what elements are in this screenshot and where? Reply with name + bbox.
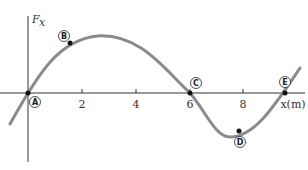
- svg-text:B: B: [61, 32, 67, 41]
- x-tick-label-2: 2: [79, 98, 86, 111]
- x-axis-label: x(m): [280, 98, 305, 111]
- point-b-label: B: [59, 31, 70, 42]
- point-a-dot: [26, 91, 31, 96]
- svg-text:E: E: [282, 78, 287, 87]
- x-tick-label-8: 8: [240, 98, 247, 111]
- svg-text:D: D: [237, 138, 244, 147]
- svg-text:A: A: [32, 98, 39, 107]
- y-axis-label-sub: x: [39, 16, 46, 29]
- force-position-graph: 2 4 6 8 x(m) F x A B C D E: [0, 0, 308, 170]
- point-d-dot: [237, 129, 242, 134]
- point-c-label: C: [191, 78, 202, 89]
- point-b-dot: [68, 41, 73, 46]
- point-e-dot: [283, 91, 288, 96]
- svg-text:C: C: [193, 79, 199, 88]
- point-a-label: A: [30, 97, 41, 108]
- x-tick-label-6: 6: [187, 98, 194, 111]
- point-d-label: D: [235, 137, 246, 148]
- point-e-label: E: [280, 77, 291, 88]
- force-curve: [10, 36, 300, 137]
- point-c-dot: [188, 91, 193, 96]
- x-tick-label-4: 4: [133, 98, 140, 111]
